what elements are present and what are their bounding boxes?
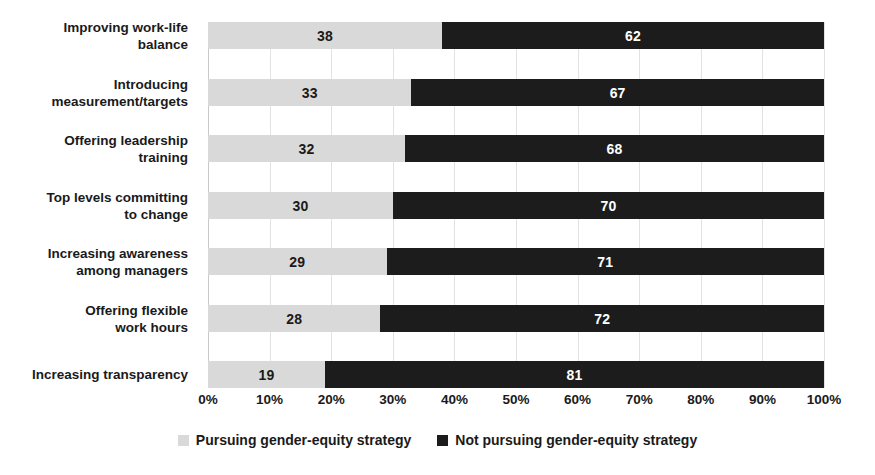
- bar-segment-pursuing: 38: [208, 22, 442, 49]
- legend-item-2[interactable]: Not pursuing gender-equity strategy: [437, 432, 697, 448]
- plot-area: 3862336732683070297128721981: [208, 22, 824, 388]
- category-label: Increasing awarenessamong managers: [0, 245, 188, 279]
- bar-segment-pursuing: 30: [208, 192, 393, 219]
- legend-swatch-icon: [178, 435, 189, 446]
- x-tick-label-80%: 80%: [687, 392, 714, 407]
- table-row: 2872: [208, 305, 824, 332]
- category-label: Increasing transparency: [0, 366, 188, 383]
- stacked-bar-chart: Improving work-lifebalanceIntroducingmea…: [0, 0, 875, 475]
- category-label: Top levels committingto change: [0, 189, 188, 223]
- legend-label: Not pursuing gender-equity strategy: [455, 432, 697, 448]
- legend-swatch-icon: [437, 435, 448, 446]
- legend-item-1[interactable]: Pursuing gender-equity strategy: [178, 432, 411, 448]
- x-tick-label-20%: 20%: [318, 392, 345, 407]
- bar-segment-pursuing: 33: [208, 79, 411, 106]
- gridline-100: [824, 22, 825, 388]
- bar-segment-not-pursuing: 72: [380, 305, 824, 332]
- bar-segment-pursuing: 32: [208, 135, 405, 162]
- x-tick-label-40%: 40%: [441, 392, 468, 407]
- table-row: 3862: [208, 22, 824, 49]
- chart-legend: Pursuing gender-equity strategyNot pursu…: [0, 432, 875, 448]
- bar-segment-pursuing: 19: [208, 361, 325, 388]
- category-label: Introducingmeasurement/targets: [0, 76, 188, 110]
- legend-label: Pursuing gender-equity strategy: [196, 432, 411, 448]
- x-tick-label-50%: 50%: [502, 392, 529, 407]
- bar-rows: 3862336732683070297128721981: [208, 22, 824, 388]
- bar-segment-not-pursuing: 70: [393, 192, 824, 219]
- bar-segment-not-pursuing: 81: [325, 361, 824, 388]
- bar-segment-not-pursuing: 62: [442, 22, 824, 49]
- x-tick-label-90%: 90%: [749, 392, 776, 407]
- category-label: Offering flexiblework hours: [0, 302, 188, 336]
- x-tick-label-30%: 30%: [379, 392, 406, 407]
- bar-segment-not-pursuing: 67: [411, 79, 824, 106]
- category-axis-labels: Improving work-lifebalanceIntroducingmea…: [0, 22, 198, 388]
- bar-segment-not-pursuing: 71: [387, 248, 824, 275]
- table-row: 1981: [208, 361, 824, 388]
- x-tick-label-70%: 70%: [626, 392, 653, 407]
- x-tick-label-100%: 100%: [807, 392, 842, 407]
- x-tick-label-10%: 10%: [256, 392, 283, 407]
- bar-segment-pursuing: 28: [208, 305, 380, 332]
- table-row: 3268: [208, 135, 824, 162]
- category-label: Improving work-lifebalance: [0, 19, 188, 53]
- x-axis-tick-labels: 0%10%20%30%40%50%60%70%80%90%100%: [208, 392, 824, 414]
- table-row: 3367: [208, 79, 824, 106]
- table-row: 3070: [208, 192, 824, 219]
- bar-segment-pursuing: 29: [208, 248, 387, 275]
- x-tick-label-0%: 0%: [198, 392, 218, 407]
- category-label: Offering leadershiptraining: [0, 132, 188, 166]
- bar-segment-not-pursuing: 68: [405, 135, 824, 162]
- table-row: 2971: [208, 248, 824, 275]
- x-tick-label-60%: 60%: [564, 392, 591, 407]
